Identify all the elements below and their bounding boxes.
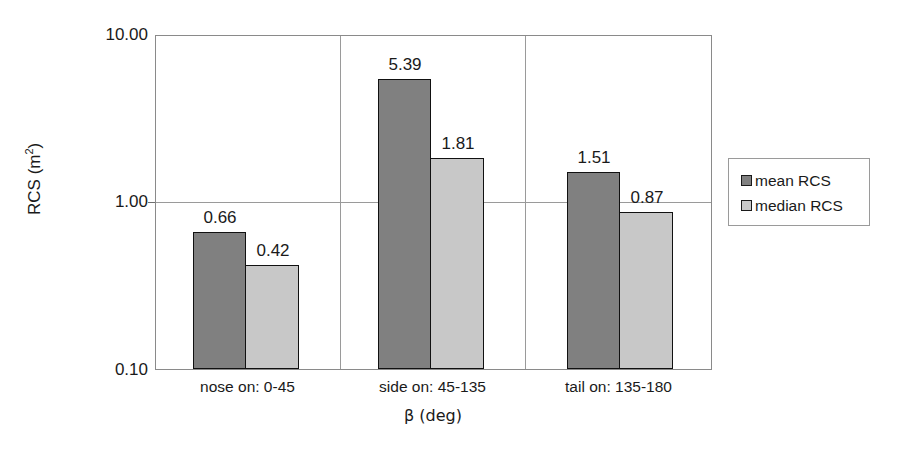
legend-item-median-rcs[interactable]: median RCS [741,193,869,218]
bar-median-side-on[interactable] [430,158,484,369]
category-label-nose-on: nose on: 0-45 [155,378,340,396]
bar-label-median-tail-on: 0.87 [607,188,687,208]
chart-root: 10.00 1.00 0.10 RCS (m2) 0.66 0.42 5.39 … [0,0,920,453]
y-axis-title: RCS (m2) [23,109,45,249]
y-tick-label-0-1: 0.10 [0,360,148,380]
category-separator-1 [340,36,341,369]
bar-median-tail-on[interactable] [619,212,673,369]
bar-mean-side-on[interactable] [378,79,431,369]
legend-label-median-rcs: median RCS [755,197,843,215]
category-label-side-on: side on: 45-135 [340,378,525,396]
y-tick-label-10: 10.00 [0,25,148,45]
bar-label-mean-side-on: 5.39 [365,55,445,75]
y-tick-mark-1 [148,202,155,203]
legend-item-mean-rcs[interactable]: mean RCS [741,168,869,193]
category-separator-2 [525,36,526,369]
bar-label-mean-tail-on: 1.51 [554,148,634,168]
y-axis-title-text: RCS (m [25,155,44,215]
category-label-tail-on: tail on: 135-180 [525,378,712,396]
x-axis-title-text: β (deg) [404,406,462,425]
bar-label-median-side-on: 1.81 [418,134,498,154]
legend-swatch-median-icon [741,200,752,211]
bar-label-median-nose-on: 0.42 [233,241,313,261]
bar-median-nose-on[interactable] [245,265,299,369]
y-axis-title-exponent: 2 [23,148,35,154]
y-axis-title-close: ) [25,143,44,149]
legend: mean RCS median RCS [728,158,870,226]
bar-label-mean-nose-on: 0.66 [180,208,260,228]
legend-label-mean-rcs: mean RCS [755,172,831,190]
legend-swatch-mean-icon [741,175,752,186]
plot-area: 0.66 0.42 5.39 1.81 1.51 0.87 [155,35,712,370]
x-axis-title: β (deg) [0,406,920,425]
